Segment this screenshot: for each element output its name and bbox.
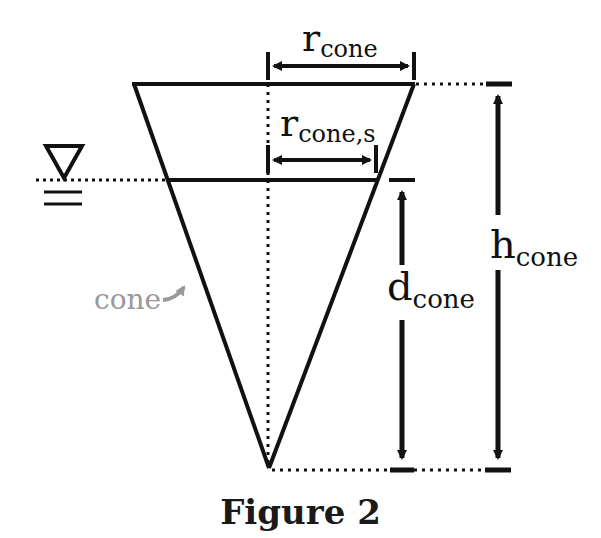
cone-diagram: rcone rcone,s dcone hcone cone: [0, 0, 601, 538]
pointer-arrow-icon: [163, 287, 184, 300]
r-cone-s-dimension: [268, 145, 376, 173]
h-cone-dimension: [485, 84, 512, 470]
d-cone-dimension: [390, 180, 415, 470]
cone-pointer-label: cone: [94, 283, 161, 316]
r-cone-s-label: rcone,s: [280, 101, 376, 148]
water-level-icon: [44, 146, 82, 204]
r-cone-label: rcone: [302, 16, 378, 63]
d-cone-label: dcone: [387, 263, 475, 314]
h-cone-label: hcone: [490, 221, 578, 272]
figure-caption: Figure 2: [0, 492, 601, 532]
